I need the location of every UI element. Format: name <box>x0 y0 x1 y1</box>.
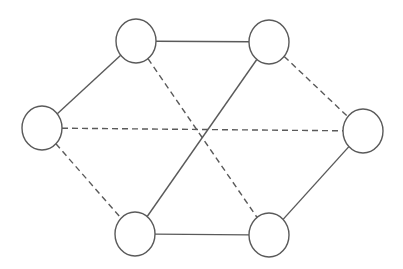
edge-bottom-right-right <box>283 147 349 220</box>
edge-top-right-right <box>284 56 348 116</box>
node-top-left <box>116 19 156 63</box>
edge-top-left-top-right <box>156 41 249 42</box>
edge-left-top-left <box>57 55 120 114</box>
node-top-right <box>249 20 289 64</box>
node-left <box>22 106 62 150</box>
edge-bottom-left-bottom-right <box>155 234 249 235</box>
node-bottom-right <box>249 213 289 257</box>
node-right <box>343 109 383 153</box>
edges-group <box>56 41 349 235</box>
edge-left-bottom-left <box>56 144 121 218</box>
edge-left-right <box>62 128 343 131</box>
graph-diagram <box>0 0 403 269</box>
node-bottom-left <box>115 212 155 256</box>
